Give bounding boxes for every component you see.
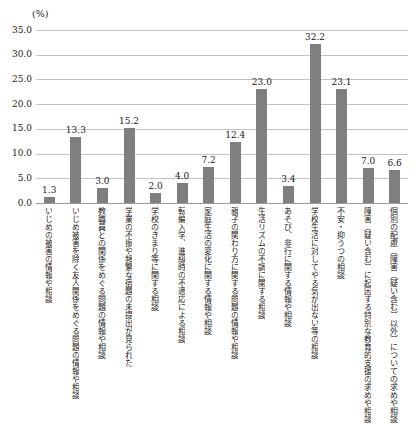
category-label: いじめ被害を除く友人関係をめぐる問題の情報や相談 [70, 207, 79, 428]
gridline [36, 104, 408, 105]
category-label: 不安・抑うつの相談 [336, 207, 345, 428]
bar [389, 170, 400, 203]
y-axis-unit-label: (%) [32, 8, 48, 19]
bar-value-label: 4.0 [162, 171, 202, 181]
category-label: 学業の不振や頻繁な宿題の未提出が見られた [123, 207, 132, 428]
bar-value-label: 3.0 [82, 176, 122, 186]
bar [203, 167, 214, 203]
category-label: あそび、非行に関する情報や相談 [282, 207, 291, 428]
category-label: 家庭生活の変化に関する情報や相談 [203, 207, 212, 428]
category-label: 学校のきまり等に関する相談 [150, 207, 159, 428]
category-label: 教職員との関係をめぐる問題の情報や相談 [96, 207, 105, 428]
category-label: 転編入学、進級時の不適応による相談 [176, 207, 185, 428]
gridline [36, 30, 408, 31]
y-axis-tick-label: 25.0 [6, 74, 32, 84]
category-label: 学校生活に対してやる気が出ない等の相談 [309, 207, 318, 428]
bar [256, 89, 267, 203]
bar-value-label: 23.0 [242, 77, 282, 87]
bar-value-label: 6.6 [375, 158, 415, 168]
bar [70, 137, 81, 203]
bar-chart: (%) 0.05.010.015.020.025.030.035.0 1.313… [0, 0, 415, 429]
bar [283, 186, 294, 203]
bar [336, 89, 347, 203]
y-axis-tick-label: 15.0 [6, 123, 32, 133]
category-label: いじめの被害の情報や相談 [43, 207, 52, 428]
gridline [36, 55, 408, 56]
bar [310, 44, 321, 203]
bar [97, 188, 108, 203]
bar-value-label: 13.3 [56, 125, 96, 135]
y-axis-tick-label: 20.0 [6, 99, 32, 109]
bar [44, 197, 55, 203]
bar [230, 142, 241, 203]
bar-value-label: 15.2 [109, 116, 149, 126]
bar [150, 193, 161, 203]
category-label: 親子の関わり方に関する問題の情報や相談 [229, 207, 238, 428]
x-axis-line [36, 203, 408, 204]
bar-value-label: 3.4 [268, 174, 308, 184]
bar-value-label: 1.3 [29, 185, 69, 195]
category-label: 障害（疑い含む）に起因する特別な教育的支援の求めや相談 [362, 207, 371, 428]
bar-value-label: 32.2 [295, 32, 335, 42]
bar [363, 168, 374, 203]
gridline [36, 154, 408, 155]
category-label: 個別の配慮（障害（疑い含む）以外）についての求めや相談 [389, 207, 398, 428]
bar [124, 128, 135, 203]
y-axis-tick-label: 35.0 [6, 25, 32, 35]
y-axis-tick-label: 30.0 [6, 49, 32, 59]
bar-value-label: 23.1 [322, 77, 362, 87]
y-axis-tick-label: 5.0 [6, 173, 32, 183]
y-axis-tick-label: 10.0 [6, 148, 32, 158]
bar-value-label: 2.0 [136, 181, 176, 191]
bar [177, 183, 188, 203]
category-label: 生活リズムの不調に関する相談 [256, 207, 265, 428]
bar-value-label: 7.2 [189, 155, 229, 165]
bar-value-label: 12.4 [215, 130, 255, 140]
y-axis-tick-label: 0.0 [6, 198, 32, 208]
